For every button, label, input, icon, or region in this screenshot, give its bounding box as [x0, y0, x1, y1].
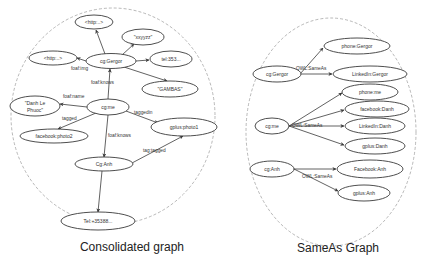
svg-text:"GAMBAS": "GAMBAS": [158, 86, 183, 92]
svg-text:Phuoc": Phuoc": [27, 107, 43, 113]
node-gplus-photo1: gplus:photo1: [151, 118, 217, 136]
node-facebook-photo2: facebook:photo2: [20, 129, 88, 143]
node-gambas: "GAMBAS": [142, 81, 198, 97]
node-http-left: <http:..>: [29, 51, 77, 65]
svg-text:Cg:Anh: Cg:Anh: [96, 161, 113, 167]
node-phone-gergor: phone:Gergor: [324, 38, 390, 54]
edge-gergor-xxyyzz: [122, 44, 134, 55]
edge-label-taggedin: taggedin: [134, 110, 153, 115]
diagram-canvas: foaf:img foaf:knows foaf:name tagged tag…: [0, 0, 431, 266]
svg-text:cg:me: cg:me: [265, 123, 279, 129]
svg-text:LinkedIn:Gergor: LinkedIn:Gergor: [352, 71, 388, 77]
svg-text:facebook:Danh: facebook:Danh: [360, 106, 394, 112]
node-sa-cg-gergor: cg:Gergor: [253, 66, 301, 82]
svg-text:phone:Gergor: phone:Gergor: [342, 43, 373, 49]
consolidated-graph: foaf:img foaf:knows foaf:name tagged tag…: [10, 8, 217, 254]
svg-text:cg:Gergor: cg:Gergor: [100, 58, 123, 64]
node-linkedin-danh: LinkedIn:Danh: [345, 118, 405, 134]
node-linkedin-gergor: LinkedIn:Gergor: [333, 66, 407, 82]
edge-label-gergor-sameas: OWL:SameAs: [296, 66, 327, 71]
svg-text:gplus:photo1: gplus:photo1: [170, 124, 199, 130]
svg-text:phone:me: phone:me: [359, 89, 381, 95]
node-xxyyzz: "xxyyzz": [122, 29, 164, 45]
node-http-top: <http:..>: [75, 15, 113, 29]
edge-anh-tel35388: [98, 171, 102, 212]
svg-text:Facebook:Anh: Facebook:Anh: [354, 166, 386, 172]
edge-anh-gplus-anh: [294, 169, 338, 191]
sameas-caption: SameAs Graph: [297, 241, 379, 255]
edge-me-danh: [60, 104, 87, 107]
node-gplus-anh: gplus:Anh: [338, 185, 390, 201]
svg-text:cg:me: cg:me: [101, 104, 115, 110]
svg-text:Tel:+35388...: Tel:+35388...: [84, 218, 113, 224]
svg-text:facebook:photo2: facebook:photo2: [36, 133, 73, 139]
svg-text:"xxyyzz": "xxyyzz": [134, 34, 153, 40]
node-tel35388: Tel:+35388...: [61, 212, 135, 230]
svg-text:cg:Anh: cg:Anh: [264, 166, 280, 172]
node-cg-anh: Cg:Anh: [75, 157, 133, 171]
sameas-graph: OWL:SameAs OWL:SameAs OWL:SameAs cg:Gerg…: [246, 18, 416, 255]
edge-label-foaf-img: foaf:img: [71, 66, 88, 71]
edge-label-tagged: tagged: [62, 116, 77, 121]
edge-label-tag-tagged: tag:tagged: [143, 148, 166, 153]
node-cg-gergor: cg:Gergor: [86, 54, 136, 69]
node-facebook-danh: facebook:Danh: [345, 101, 409, 117]
edge-me-gplus-danh: [289, 126, 344, 145]
edge-gergor-tel353: [136, 60, 149, 61]
node-sa-cg-anh: cg:Anh: [250, 161, 294, 177]
node-danh-le-phuoc: "Danh Le Phuoc": [10, 96, 60, 116]
edge-label-foaf-knows-2: foaf:knows: [108, 133, 132, 138]
svg-text:"Danh Le: "Danh Le: [25, 100, 46, 106]
svg-text:<http:..>: <http:..>: [85, 19, 103, 25]
node-phone-me: phone:me: [342, 84, 398, 100]
svg-text:<http:..>: <http:..>: [44, 55, 62, 61]
node-sa-cg-me: cg:me: [255, 118, 289, 134]
svg-text:gplus:Anh: gplus:Anh: [353, 190, 375, 196]
edge-label-anh-sameas: OWL:SameAs: [302, 174, 333, 179]
svg-text:cg:Gergor: cg:Gergor: [266, 71, 289, 77]
node-gplus-danh: gplus:Danh: [345, 138, 405, 154]
edge-label-foaf-name: foaf:name: [63, 94, 85, 99]
consolidated-caption: Consolidated graph: [80, 240, 184, 254]
node-tel353: tel:353...: [150, 51, 192, 67]
node-cg-me: cg:me: [87, 99, 129, 115]
svg-text:tel:353...: tel:353...: [161, 56, 180, 62]
edge-label-foaf-knows-1: foaf:knows: [91, 80, 115, 85]
edge-me-phone-me: [289, 93, 342, 126]
edge-gergor-http-left: [77, 58, 86, 61]
node-facebook-anh: Facebook:Anh: [337, 160, 403, 178]
svg-text:gplus:Danh: gplus:Danh: [362, 143, 388, 149]
edge-label-me-sameas: OWL:SameAs: [292, 123, 323, 128]
edge-gergor-gambas: [124, 67, 167, 81]
edge-gergor-http-top: [96, 30, 105, 54]
svg-text:LinkedIn:Danh: LinkedIn:Danh: [359, 123, 391, 129]
